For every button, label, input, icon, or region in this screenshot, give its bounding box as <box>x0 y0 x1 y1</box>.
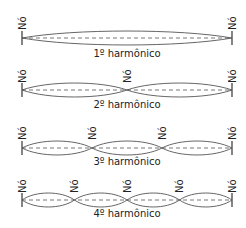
node-label: Nó <box>227 179 238 193</box>
node-label: Nó <box>174 179 185 193</box>
harmonic-label: 4º harmônico <box>93 208 160 219</box>
harmonic-row-1: NóNó1º harmônico <box>17 16 238 59</box>
harmonic-label: 1º harmônico <box>93 48 160 59</box>
harmonic-label: 2º harmônico <box>93 99 160 110</box>
wave-envelope-lower <box>22 38 232 45</box>
harmonic-label: 3º harmônico <box>93 156 160 167</box>
node-label: Nó <box>17 179 28 193</box>
node-label: Nó <box>87 126 98 140</box>
node-label: Nó <box>227 16 238 30</box>
node-label: Nó <box>227 69 238 83</box>
wave-envelope-upper <box>22 31 232 38</box>
node-label: Nó <box>122 69 133 83</box>
harmonic-row-3: NóNóNóNó3º harmônico <box>17 126 238 167</box>
node-label: Nó <box>157 126 168 140</box>
node-label: Nó <box>122 179 133 193</box>
harmonic-row-2: NóNóNó2º harmônico <box>17 69 238 110</box>
node-label: Nó <box>17 126 28 140</box>
harmonic-row-4: NóNóNóNóNó4º harmônico <box>17 179 238 219</box>
node-label: Nó <box>69 179 80 193</box>
node-label: Nó <box>17 16 28 30</box>
standing-wave-harmonics-diagram: NóNó1º harmônicoNóNóNó2º harmônicoNóNóNó… <box>0 0 246 228</box>
node-label: Nó <box>17 69 28 83</box>
node-label: Nó <box>227 126 238 140</box>
